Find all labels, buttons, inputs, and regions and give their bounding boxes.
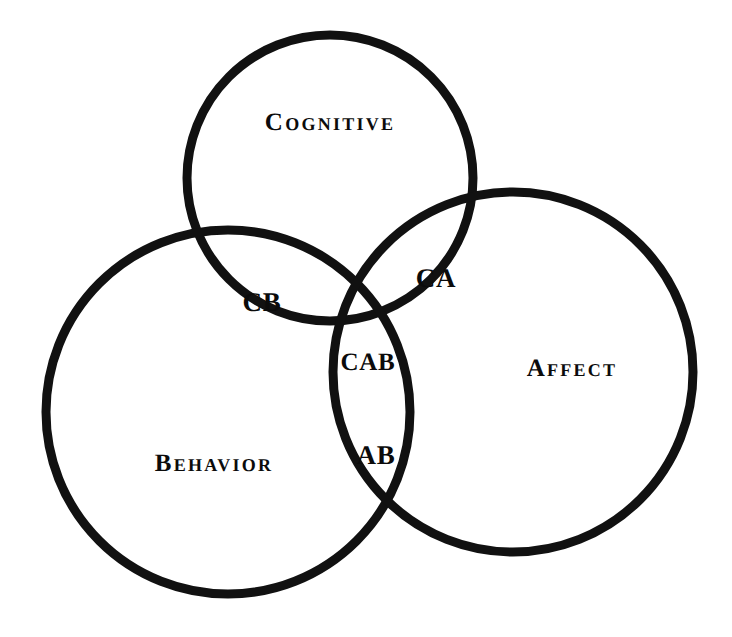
set-label-affect: Affect bbox=[527, 356, 618, 381]
region-label-ca: CA bbox=[416, 265, 457, 292]
venn-circles-canvas bbox=[0, 0, 732, 637]
venn-diagram-figure: Cognitive Behavior Affect CB CA CAB AB bbox=[0, 0, 732, 637]
set-label-behavior: Behavior bbox=[155, 451, 273, 476]
region-label-cab: CAB bbox=[340, 350, 395, 375]
set-label-cognitive: Cognitive bbox=[265, 110, 395, 135]
region-label-ab: AB bbox=[356, 442, 395, 469]
region-label-cb: CB bbox=[242, 289, 281, 316]
